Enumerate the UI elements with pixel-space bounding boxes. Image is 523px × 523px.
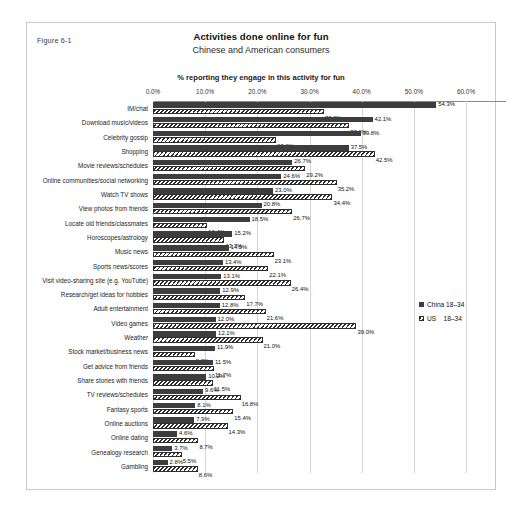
bar-us: 15.4% (153, 409, 233, 414)
bar-us: 5.5% (153, 452, 182, 457)
bar-us: 21.0% (153, 337, 263, 342)
bar-china: 12.8% (153, 303, 220, 308)
bar-value-label-china: 23.0% (275, 187, 292, 193)
legend-item-china: China 18–34 (419, 301, 464, 308)
bar-us: 14.3% (153, 423, 228, 428)
category-label: Stock market/business news (68, 348, 148, 355)
bar-row: Share stories with friends10.2%11.5% (153, 373, 466, 387)
bar-row: Gambling2.8%8.6% (153, 459, 466, 473)
category-label: Visit video-sharing site (e.g. YouTube) (42, 276, 148, 283)
bar-value-label-china: 3.7% (174, 445, 187, 451)
bar-row: Weather12.1%21.0% (153, 330, 466, 344)
category-label: Research/get ideas for hobbies (61, 291, 148, 298)
legend-swatch-china (419, 302, 424, 307)
bar-us: 23.1% (153, 252, 274, 257)
bar-us: 8.7% (153, 438, 198, 443)
bar-china: 15.2% (153, 231, 232, 236)
bar-us: 13.7% (153, 237, 224, 242)
bar-row: Research/get ideas for hobbies12.9%17.7% (153, 287, 466, 301)
bar-china: 11.9% (153, 346, 215, 351)
bar-china: 4.6% (153, 431, 177, 436)
bar-china: 12.0% (153, 317, 216, 322)
bar-value-label-china: 9.6% (205, 387, 218, 393)
legend-label-china: China 18–34 (427, 301, 464, 308)
bar-us: 26.7% (153, 209, 292, 214)
bar-row: Locate old friends/classmates18.5%10.4% (153, 215, 466, 229)
bar-china: 20.8% (153, 203, 262, 208)
legend: China 18–34 US 18–34 (419, 301, 464, 329)
category-label: Video games (111, 319, 148, 326)
bar-china: 12.9% (153, 288, 220, 293)
bar-china: 37.5% (153, 145, 349, 150)
bar-value-label-china: 24.6% (283, 173, 300, 179)
bar-china: 2.8% (153, 460, 168, 465)
x-tick-label: 20.0% (248, 88, 266, 95)
bar-row: Shopping37.5%42.5% (153, 144, 466, 158)
bar-us: 23.6% (153, 137, 276, 142)
bar-row: Genealogy research3.7%5.5% (153, 444, 466, 458)
bar-us: 8.0% (153, 352, 195, 357)
bar-us: 39.0% (153, 323, 356, 328)
chart-title: Activities done online for fun (27, 31, 495, 42)
bar-us: 29.2% (153, 166, 305, 171)
x-tick-label: 10.0% (196, 88, 214, 95)
bar-row: Visit video-sharing site (e.g. YouTube)1… (153, 273, 466, 287)
bar-row: Sports news/scores13.4%22.1% (153, 258, 466, 272)
bar-china: 12.1% (153, 331, 216, 336)
bar-china: 8.1% (153, 403, 195, 408)
bar-us: 16.8% (153, 395, 241, 400)
bar-value-label-china: 4.6% (179, 430, 192, 436)
bar-row: Movie reviews/schedules26.7%29.2% (153, 158, 466, 172)
category-label: TV reviews/schedules (87, 391, 148, 398)
bar-value-label-china: 12.0% (218, 316, 235, 322)
legend-swatch-us (419, 316, 424, 321)
bar-us: 26.4% (153, 280, 291, 285)
bar-china: 54.3% (153, 102, 436, 107)
bar-row: Get advice from friends11.5%11.7% (153, 359, 466, 373)
bar-row: Watch TV shows23.0%34.4% (153, 187, 466, 201)
category-label: Fantasy sports (107, 405, 148, 412)
bar-row: Online dating4.6%8.7% (153, 430, 466, 444)
figure-container: Figure 6-1 Activities done online for fu… (26, 22, 496, 490)
category-label: Shopping (121, 148, 148, 155)
category-label: Online dating (111, 434, 148, 441)
bar-china: 13.4% (153, 260, 223, 265)
chart-subtitle: Chinese and American consumers (27, 45, 495, 55)
bar-value-label-china: 15.2% (234, 230, 251, 236)
bar-us: 17.7% (153, 295, 245, 300)
bar-china: 13.1% (153, 274, 221, 279)
category-label: Online auctions (105, 419, 148, 426)
bar-value-label-china: 13.1% (223, 273, 240, 279)
category-label: Horoscopes/astrology (87, 233, 148, 240)
bar-value-label-china: 18.5% (252, 216, 269, 222)
x-tick-label: 0.0% (146, 88, 161, 95)
bar-row: Online communities/social networking24.6… (153, 173, 466, 187)
bar-value-label-china: 7.9% (196, 416, 209, 422)
bar-us: 11.5% (153, 380, 213, 385)
category-label: Share stories with friends (77, 376, 148, 383)
bar-china: 18.5% (153, 217, 250, 222)
bar-value-label-china: 26.7% (294, 158, 311, 164)
x-tick-label: 50.0% (405, 88, 423, 95)
category-label: Music news (115, 248, 148, 255)
x-tick-label: 60.0% (457, 88, 475, 95)
bar-china: 7.9% (153, 417, 194, 422)
bar-us: 11.7% (153, 366, 214, 371)
bar-value-label-china: 11.5% (215, 359, 231, 365)
category-label: Locate old friends/classmates (65, 219, 148, 226)
bar-row: View photos from friends20.8%26.7% (153, 201, 466, 215)
x-axis-title: % reporting they engage in this activity… (27, 73, 495, 82)
legend-item-us: US 18–34 (419, 315, 464, 322)
bar-value-label-china: 14.5% (231, 244, 248, 250)
bar-row: IM/chat54.3%32.8% (153, 101, 466, 115)
plot-area: 0.0%10.0%20.0%30.0%40.0%50.0%60.0% IM/ch… (153, 101, 466, 473)
bar-china: 26.7% (153, 160, 292, 165)
bar-china: 23.0% (153, 188, 273, 193)
bar-us: 35.2% (153, 180, 337, 185)
bar-value-label-china: 10.2% (208, 373, 225, 379)
category-label: View photos from friends (79, 205, 148, 212)
bar-value-label-china: 12.9% (222, 287, 239, 293)
bar-row: TV reviews/schedules9.6%16.8% (153, 387, 466, 401)
bar-china: 24.6% (153, 174, 281, 179)
bar-value-label-china: 11.9% (217, 344, 233, 350)
